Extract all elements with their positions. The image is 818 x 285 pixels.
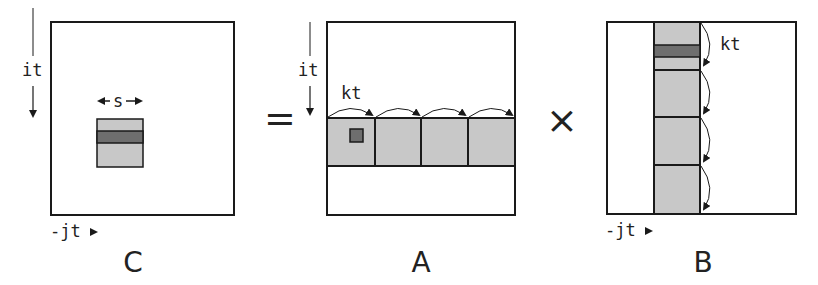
c-highlight-row: [97, 131, 143, 143]
b-highlight-row: [654, 45, 700, 57]
b-col-axis-label: -jt: [605, 220, 636, 240]
b-matrix-label: B: [693, 246, 712, 279]
a-step-label: kt: [341, 83, 361, 103]
c-matrix-label: C: [123, 246, 143, 279]
matmul-diagram: it s -jt C = it kt A ×: [0, 0, 818, 285]
a-highlight-element: [350, 129, 363, 142]
a-row-axis-label: it: [298, 60, 318, 80]
matrix-c: it s -jt C: [22, 8, 234, 279]
b-col-axis-arrow-icon: [645, 227, 653, 235]
c-block-width-label: s: [113, 91, 123, 111]
c-row-axis-label: it: [22, 60, 42, 80]
matrix-a: it kt A: [298, 22, 515, 279]
c-col-axis-label: -jt: [50, 221, 81, 241]
c-col-axis-arrow-icon: [90, 228, 98, 236]
times-operator: ×: [546, 98, 578, 142]
a-matrix-label: A: [411, 246, 430, 279]
matrix-b: kt -jt B: [605, 22, 796, 279]
b-step-label: kt: [720, 34, 740, 54]
equals-operator: =: [264, 96, 296, 140]
